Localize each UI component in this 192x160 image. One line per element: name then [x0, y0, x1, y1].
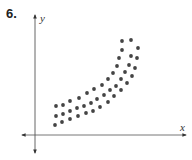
data-point: [123, 70, 127, 74]
data-point: [95, 97, 99, 101]
data-point: [68, 109, 72, 113]
x-axis-label: x: [179, 121, 185, 133]
scatter-plot: x y: [0, 0, 192, 160]
data-point: [129, 54, 133, 58]
data-point: [108, 88, 112, 92]
data-point: [106, 77, 110, 81]
data-point: [127, 63, 131, 67]
data-point: [119, 77, 123, 81]
data-point: [60, 120, 64, 124]
data-point: [120, 48, 124, 52]
data-point: [91, 109, 95, 113]
data-point: [106, 100, 110, 104]
data-point: [89, 101, 93, 105]
data-point: [117, 56, 121, 60]
data-point: [111, 71, 115, 75]
data-point: [130, 74, 134, 78]
data-point: [84, 111, 88, 115]
data-point: [112, 94, 116, 98]
data-point: [115, 64, 119, 68]
data-points: [53, 38, 140, 127]
data-point: [53, 123, 57, 127]
data-point: [76, 114, 80, 118]
y-axis-label: y: [39, 12, 45, 24]
data-point: [125, 81, 129, 85]
data-point: [75, 106, 79, 110]
data-point: [98, 105, 102, 109]
data-point: [129, 38, 133, 42]
data-point: [92, 87, 96, 91]
data-point: [120, 39, 124, 43]
data-point: [85, 91, 89, 95]
data-point: [100, 83, 104, 87]
data-point: [114, 84, 118, 88]
data-point: [54, 104, 58, 108]
data-point: [133, 66, 137, 70]
data-point: [135, 56, 139, 60]
data-point: [68, 117, 72, 121]
data-point: [77, 96, 81, 100]
data-point: [68, 99, 72, 103]
data-point: [82, 104, 86, 108]
data-point: [119, 88, 123, 92]
data-point: [61, 103, 65, 107]
data-point: [102, 93, 106, 97]
data-point: [136, 46, 140, 50]
data-point: [61, 112, 65, 116]
data-point: [54, 114, 58, 118]
